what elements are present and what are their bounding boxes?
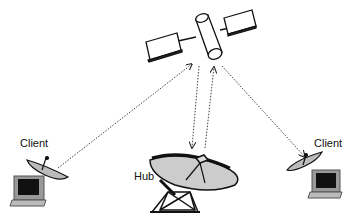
link-client-left-to-satellite: [58, 64, 192, 168]
client-left-laptop-icon: [10, 176, 46, 206]
client-right-laptop-icon: [308, 170, 342, 198]
satellite-icon: [146, 10, 256, 62]
client-left-label: Client: [20, 137, 48, 149]
hub-dish-icon: [150, 155, 238, 212]
diagram-graphics: [0, 0, 354, 219]
link-satellite-to-client-right: [222, 66, 305, 157]
link-satellite-to-hub: [192, 66, 199, 148]
satellite-network-diagram: Client Client Hub: [0, 0, 354, 219]
link-hub-to-satellite: [205, 67, 214, 148]
client-right-dish-icon: [287, 152, 322, 171]
hub-label: Hub: [134, 170, 154, 182]
client-right-label: Client: [314, 137, 342, 149]
